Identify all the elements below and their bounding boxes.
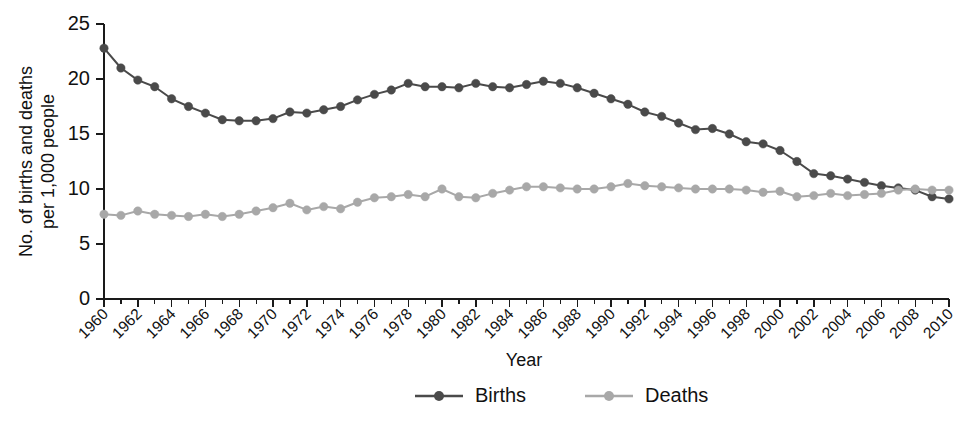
y-tick-label: 5: [79, 232, 90, 254]
x-tick-label: 1988: [548, 305, 584, 341]
x-tick-label: 2000: [751, 305, 788, 342]
data-point: [100, 210, 108, 218]
data-point: [387, 193, 395, 201]
data-point: [624, 100, 632, 108]
data-point: [607, 95, 615, 103]
data-point: [117, 211, 125, 219]
data-point: [151, 210, 159, 218]
data-point: [117, 64, 125, 72]
x-tick-label: 1986: [514, 305, 550, 341]
data-point: [336, 205, 344, 213]
data-point: [472, 194, 480, 202]
data-series: [100, 44, 953, 221]
x-tick-label: 1976: [345, 305, 381, 341]
chart-legend: BirthsDeaths: [415, 384, 708, 406]
data-point: [928, 186, 936, 194]
data-point: [201, 109, 209, 117]
data-point: [167, 211, 175, 219]
data-point: [658, 112, 666, 120]
x-axis-title-label: Year: [506, 350, 542, 370]
data-point: [134, 76, 142, 84]
data-point: [404, 190, 412, 198]
data-point: [607, 183, 615, 191]
x-tick-label: 1994: [649, 305, 686, 342]
legend-marker-deaths: [604, 391, 614, 401]
data-point: [725, 130, 733, 138]
y-axis-title: No. of births and deathsper 1,000 people: [16, 66, 58, 257]
data-point: [455, 84, 463, 92]
data-point: [286, 199, 294, 207]
data-point: [945, 195, 953, 203]
data-point: [336, 102, 344, 110]
x-tick-label: 1992: [616, 305, 652, 341]
line-chart: No. of births and deathsper 1,000 people…: [0, 0, 965, 428]
x-tick-label: 2006: [852, 305, 888, 341]
axis-lines: [104, 24, 949, 299]
data-point: [303, 206, 311, 214]
data-point: [641, 108, 649, 116]
x-tick-label: 1984: [480, 305, 517, 342]
data-point: [556, 184, 564, 192]
y-tick-label: 25: [68, 12, 90, 34]
x-tick-label: 1960: [75, 305, 112, 342]
data-point: [674, 119, 682, 127]
y-axis-title-line: per 1,000 people: [38, 94, 58, 229]
legend-marker-births: [434, 391, 444, 401]
data-point: [218, 116, 226, 124]
x-tick-label: 1998: [717, 305, 753, 341]
data-point: [641, 182, 649, 190]
data-point: [658, 183, 666, 191]
data-point: [286, 108, 294, 116]
data-point: [759, 140, 767, 148]
data-point: [843, 191, 851, 199]
data-point: [184, 102, 192, 110]
data-point: [827, 172, 835, 180]
data-point: [134, 207, 142, 215]
data-point: [167, 95, 175, 103]
legend-label-deaths: Deaths: [645, 384, 708, 406]
data-point: [759, 188, 767, 196]
data-point: [827, 189, 835, 197]
data-point: [370, 194, 378, 202]
data-point: [184, 212, 192, 220]
data-point: [691, 185, 699, 193]
x-tick-label: 1982: [447, 305, 483, 341]
data-point: [539, 77, 547, 85]
data-point: [320, 106, 328, 114]
data-point: [911, 185, 919, 193]
series-births: [100, 44, 953, 203]
x-axis-ticks: 1960196219641966196819701972197419761978…: [75, 299, 957, 342]
x-tick-label: 2010: [920, 305, 957, 342]
data-point: [860, 178, 868, 186]
x-tick-label: 2008: [886, 305, 922, 341]
data-point: [793, 193, 801, 201]
data-point: [472, 79, 480, 87]
legend-label-births: Births: [475, 384, 526, 406]
data-point: [218, 212, 226, 220]
data-point: [877, 189, 885, 197]
data-point: [742, 186, 750, 194]
data-point: [353, 96, 361, 104]
data-point: [505, 186, 513, 194]
data-point: [201, 210, 209, 218]
data-point: [894, 186, 902, 194]
x-axis-title: Year: [506, 350, 542, 370]
data-point: [810, 191, 818, 199]
series-deaths: [100, 179, 953, 220]
y-tick-label: 0: [79, 287, 90, 309]
data-point: [100, 44, 108, 52]
x-tick-label: 1990: [582, 305, 619, 342]
data-point: [370, 90, 378, 98]
data-point: [522, 80, 530, 88]
y-axis-title-line: No. of births and deaths: [16, 66, 36, 257]
chart-page: No. of births and deathsper 1,000 people…: [0, 0, 965, 428]
data-point: [674, 184, 682, 192]
x-tick-label: 2004: [818, 305, 855, 342]
data-point: [489, 83, 497, 91]
data-point: [235, 210, 243, 218]
data-point: [235, 117, 243, 125]
y-tick-label: 20: [68, 67, 90, 89]
data-point: [556, 79, 564, 87]
data-point: [573, 84, 581, 92]
data-point: [252, 117, 260, 125]
